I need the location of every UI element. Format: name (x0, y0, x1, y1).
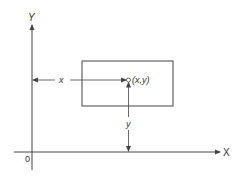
y-dimension-label: y (125, 119, 131, 129)
y-axis-label: Y (28, 12, 36, 23)
rectangle-region (82, 61, 173, 106)
coordinate-diagram: Y X 0 x (x,y) y (0, 0, 242, 178)
x-dimension-label: x (58, 75, 64, 85)
point-label: (x,y) (132, 75, 150, 85)
x-axis-label: X (223, 147, 230, 158)
point-marker (127, 78, 131, 82)
origin-label: 0 (25, 154, 30, 164)
